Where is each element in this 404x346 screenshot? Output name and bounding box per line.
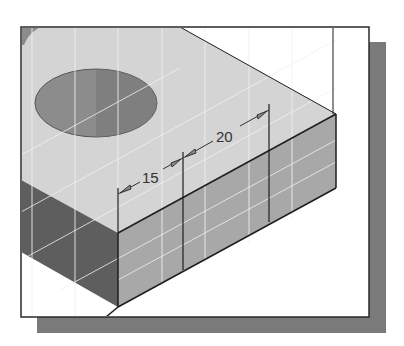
dimension-label-20: 20 bbox=[216, 128, 233, 145]
figure: 15 20 bbox=[0, 0, 404, 346]
dimension-label-15: 15 bbox=[142, 169, 159, 186]
isometric-drawing: 15 20 bbox=[0, 0, 404, 346]
